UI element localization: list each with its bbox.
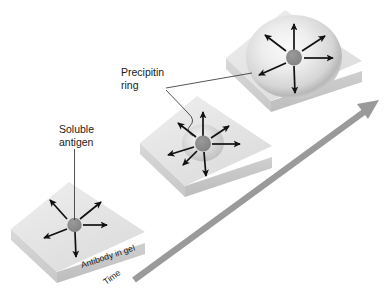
gel-slab-stage-3 <box>226 10 362 112</box>
radial-immunodiffusion-figure: Antibody in gel <box>0 0 389 305</box>
soluble-antigen-label-line2: antigen <box>59 136 94 148</box>
antigen-dot-stage-3 <box>286 50 302 66</box>
gel-slab-stage-1: Antibody in gel <box>11 182 145 283</box>
precipitin-ring-label-line1: Precipitin <box>121 66 164 78</box>
gel-slab-stage-2 <box>140 96 272 197</box>
diffusion-arrow-down <box>294 66 295 93</box>
soluble-antigen-label-line1: Soluble <box>59 123 94 135</box>
precipitin-ring-label-line2: ring <box>121 79 139 91</box>
antigen-dot-stage-2 <box>195 136 211 152</box>
figure-canvas: Antibody in gel <box>0 0 389 305</box>
diffusion-arrow-down <box>75 232 76 257</box>
time-label: Time <box>101 267 122 286</box>
